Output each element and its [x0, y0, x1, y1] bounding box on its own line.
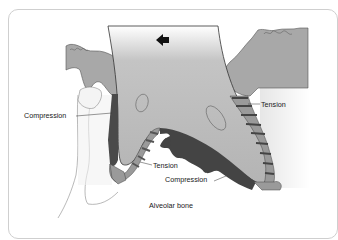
label-compression-left: Compression [24, 112, 66, 119]
label-tension-right: Tension [261, 101, 286, 108]
right-gingiva [224, 28, 308, 96]
label-compression-bottom: Compression [165, 176, 207, 183]
label-alveolar-bone: Alveolar bone [149, 202, 193, 209]
label-tension-bottom: Tension [153, 162, 178, 169]
